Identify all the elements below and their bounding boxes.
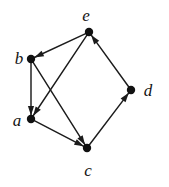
edge-arrowhead [33, 106, 41, 116]
edge-arrowhead [34, 51, 44, 58]
graph-node-label-e: e [82, 7, 90, 24]
graph-figure: abcde [0, 0, 169, 187]
graph-node-a [27, 115, 35, 123]
graph-edge [91, 35, 129, 87]
graph-node-c [83, 144, 91, 152]
graph-node-label-a: a [13, 112, 22, 129]
graph-node-label-c: c [84, 162, 92, 179]
edge-arrowhead [28, 106, 34, 116]
edge-arrowhead [91, 35, 99, 45]
graph-node-d [127, 86, 135, 94]
graph-node-e [85, 28, 93, 36]
graph-node-b [27, 55, 35, 63]
graph-edge [89, 93, 129, 145]
graph-node-label-d: d [144, 82, 153, 99]
node-layer [27, 28, 135, 152]
edge-layer [28, 34, 129, 147]
graph-node-label-b: b [15, 50, 24, 67]
